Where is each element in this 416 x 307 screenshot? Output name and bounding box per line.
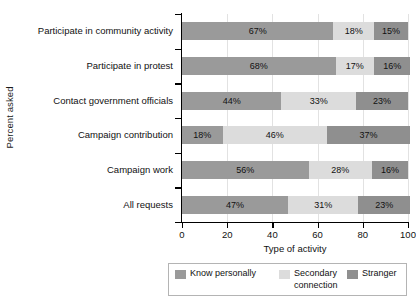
bar-segment-value: 18% (345, 26, 363, 36)
y-axis-tick (175, 222, 182, 223)
x-axis-tick-label: 40 (267, 229, 278, 240)
bar-segment-value: 18% (193, 130, 211, 140)
category-label: Participate in protest (86, 57, 173, 75)
legend-label: Know personally (190, 268, 256, 280)
legend-entry[interactable]: Secondaryconnection (279, 268, 338, 291)
legend-label-line2: connection (294, 280, 338, 292)
bar-segment: 18% (182, 126, 223, 144)
legend: Know personallySecondaryconnectionStrang… (168, 263, 407, 296)
bar-segment-value: 16% (381, 165, 399, 175)
x-axis-tick-label: 100 (400, 229, 416, 240)
bar-segment-value: 68% (250, 61, 268, 71)
bar-segment: 33% (281, 92, 356, 110)
gridline (363, 14, 364, 222)
bar-row: 68%17%16% (182, 57, 408, 75)
gridline (272, 14, 273, 222)
legend-swatch (347, 270, 358, 279)
x-axis-tick (182, 223, 183, 228)
bar-segment: 15% (374, 22, 408, 40)
bar-row: 67%18%15% (182, 22, 408, 40)
bar-segment: 16% (374, 57, 410, 75)
bar-segment: 23% (358, 196, 410, 214)
category-label: All requests (123, 196, 173, 214)
legend-label-line1: Know personally (190, 268, 256, 278)
bar-segment: 67% (182, 22, 333, 40)
legend-label: Stranger (362, 268, 397, 280)
x-axis-tick-label: 60 (312, 229, 323, 240)
bar-row: 56%28%16% (182, 161, 408, 179)
legend-label-line1: Secondary (294, 268, 337, 278)
bar-segment-value: 17% (346, 61, 364, 71)
bar-segment: 44% (182, 92, 281, 110)
bar-row: 47%31%23% (182, 196, 408, 214)
category-label: Participate in community activity (38, 22, 173, 40)
bar-segment-value: 37% (359, 130, 377, 140)
category-label: Campaign work (107, 161, 173, 179)
gridline (408, 14, 409, 222)
bar-segment: 28% (309, 161, 372, 179)
x-axis-title: Type of activity (182, 243, 408, 254)
bar-row: 18%46%37% (182, 126, 408, 144)
x-axis-line (181, 222, 409, 223)
bar-segment: 18% (333, 22, 374, 40)
y-axis-tick (175, 14, 182, 15)
bar-segment: 47% (182, 196, 288, 214)
y-axis-tick (175, 83, 182, 84)
bar-segment: 16% (372, 161, 408, 179)
bar-segment-value: 23% (373, 96, 391, 106)
x-axis-tick-label: 20 (222, 229, 233, 240)
gridline (227, 14, 228, 222)
bar-segment-value: 16% (383, 61, 401, 71)
bar-segment-value: 31% (314, 200, 332, 210)
bar-row: 44%33%23% (182, 92, 408, 110)
category-label: Contact government officials (53, 92, 173, 110)
bar-segment-value: 67% (249, 26, 267, 36)
x-axis-tick (363, 223, 364, 228)
legend-entry[interactable]: Know personally (175, 268, 256, 280)
category-label: Campaign contribution (78, 126, 173, 144)
x-axis-tick (408, 223, 409, 228)
x-axis-tick-label: 0 (179, 229, 184, 240)
bar-segment: 31% (288, 196, 358, 214)
bar-segment-value: 46% (266, 130, 284, 140)
bar-segment-value: 44% (223, 96, 241, 106)
x-axis-tick-label: 80 (358, 229, 369, 240)
bar-segment: 37% (327, 126, 411, 144)
bar-segment: 68% (182, 57, 336, 75)
bar-segment-value: 56% (236, 165, 254, 175)
y-axis-title: Percent asked (4, 86, 15, 148)
legend-label-line1: Stranger (362, 268, 397, 278)
bar-segment-value: 28% (331, 165, 349, 175)
plot-area: 67%18%15%68%17%16%44%33%23%18%46%37%56%2… (182, 14, 408, 222)
bar-segment-value: 47% (226, 200, 244, 210)
stacked-bar-chart: Percent asked Participate in community a… (0, 0, 416, 307)
bar-segment: 17% (336, 57, 374, 75)
bar-segment: 56% (182, 161, 309, 179)
y-axis-tick (175, 118, 182, 119)
legend-swatch (175, 270, 186, 279)
legend-swatch (279, 270, 290, 279)
y-axis-tick (175, 49, 182, 50)
x-axis-tick (227, 223, 228, 228)
bar-segment: 23% (356, 92, 408, 110)
legend-entry[interactable]: Stranger (347, 268, 397, 280)
bar-segment: 46% (223, 126, 327, 144)
x-axis-tick (318, 223, 319, 228)
gridline (318, 14, 319, 222)
bar-segment-value: 33% (310, 96, 328, 106)
bar-segment-value: 15% (382, 26, 400, 36)
category-label-column: Participate in community activityPartici… (18, 14, 178, 222)
legend-label: Secondaryconnection (294, 268, 338, 291)
y-axis-tick (175, 187, 182, 188)
y-axis-title-container: Percent asked (0, 0, 18, 235)
x-axis-tick (272, 223, 273, 228)
bar-segment-value: 23% (375, 200, 393, 210)
y-axis-tick (175, 153, 182, 154)
